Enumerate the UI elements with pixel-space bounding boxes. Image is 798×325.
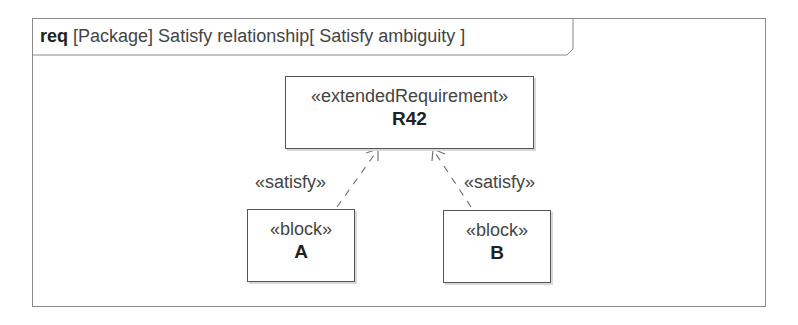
block-a-stereotype: «block» bbox=[248, 218, 354, 240]
diagram-connectors bbox=[0, 0, 798, 325]
satisfy-label-b: «satisfy» bbox=[464, 171, 535, 193]
requirement-stereotype: «extendedRequirement» bbox=[286, 85, 533, 107]
block-b-name: B bbox=[444, 241, 550, 265]
block-a-name: A bbox=[248, 240, 354, 264]
block-a[interactable]: «block» A bbox=[247, 209, 355, 282]
open-arrowhead-icon bbox=[366, 149, 378, 161]
satisfy-arrow-a[interactable] bbox=[337, 149, 378, 207]
open-arrowhead-icon bbox=[432, 149, 445, 161]
block-b-stereotype: «block» bbox=[444, 219, 550, 241]
requirement-r42[interactable]: «extendedRequirement» R42 bbox=[285, 76, 534, 149]
frame-tab-outline bbox=[32, 18, 573, 55]
satisfy-label-a: «satisfy» bbox=[255, 171, 326, 193]
requirement-name: R42 bbox=[286, 107, 533, 131]
block-b[interactable]: «block» B bbox=[443, 210, 551, 283]
